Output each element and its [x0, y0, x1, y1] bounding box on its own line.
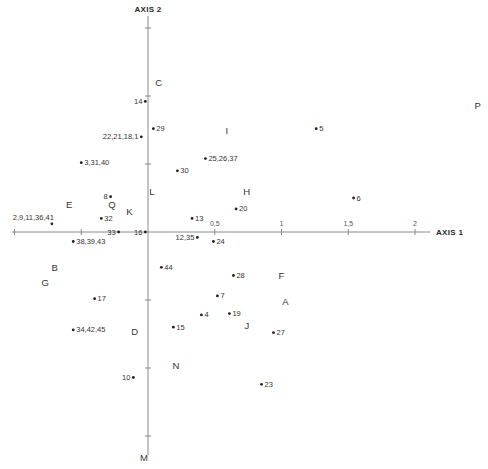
data-point: 44 [160, 263, 173, 272]
point-marker [117, 231, 120, 234]
data-point: 38,39,43 [72, 237, 106, 246]
point-label: 12,35 [176, 233, 195, 242]
data-point: 25,26,37 [204, 154, 238, 163]
point-marker [132, 376, 135, 379]
correspondence-analysis-plot: AXIS 1AXIS 20,511,52 142922,21,18,13,31,… [0, 0, 488, 469]
data-point: 2,9,11,36,41 [13, 213, 54, 225]
point-marker [196, 236, 199, 239]
axes: AXIS 1AXIS 20,511,52 [12, 5, 463, 455]
data-point: 30 [176, 166, 189, 175]
data-point: 17 [93, 294, 106, 303]
point-marker [100, 217, 103, 220]
data-point: 19 [228, 309, 241, 318]
point-label: 6 [357, 194, 361, 203]
point-marker [152, 127, 155, 130]
data-point: 29 [152, 124, 165, 133]
category-label: L [149, 186, 154, 197]
point-label: 20 [239, 204, 247, 213]
data-point: 7 [216, 291, 225, 300]
category-label: E [66, 199, 72, 210]
category-label: H [243, 186, 250, 197]
point-marker [140, 135, 143, 138]
point-label: 27 [276, 328, 284, 337]
x-tick-label: 0,5 [210, 220, 220, 227]
point-label: 33 [107, 228, 115, 237]
data-point: 14 [134, 97, 147, 106]
point-label: 25,26,37 [208, 154, 237, 163]
point-marker [93, 297, 96, 300]
point-label: 23 [264, 380, 272, 389]
point-marker [212, 240, 215, 243]
data-point: 24 [212, 237, 225, 246]
point-label: 19 [232, 309, 240, 318]
point-label: 24 [216, 237, 224, 246]
point-marker [50, 222, 53, 225]
category-label: K [126, 206, 133, 217]
data-points: 142922,21,18,13,31,403025,26,37568322,9,… [13, 97, 361, 389]
point-label: 8 [103, 192, 107, 201]
category-label: P [475, 100, 481, 111]
category-label: J [244, 320, 249, 331]
point-label: 2,9,11,36,41 [13, 213, 54, 222]
point-marker [232, 274, 235, 277]
point-label: 32 [104, 214, 112, 223]
data-point: 10 [122, 373, 135, 382]
point-marker [144, 231, 147, 234]
chart-canvas: AXIS 1AXIS 20,511,52 142922,21,18,13,31,… [0, 0, 488, 469]
point-label: 3,31,40 [84, 158, 109, 167]
point-label: 29 [156, 124, 164, 133]
point-label: 17 [98, 294, 106, 303]
point-marker [191, 217, 194, 220]
data-point: 15 [172, 323, 185, 332]
point-marker [235, 207, 238, 210]
category-label: N [173, 360, 180, 371]
data-point: 3,31,40 [80, 158, 109, 167]
data-point: 23 [260, 380, 273, 389]
point-marker [352, 197, 355, 200]
data-point: 6 [352, 194, 361, 203]
x-tick-label: 1,5 [343, 220, 353, 227]
point-marker [144, 100, 147, 103]
category-label: Q [108, 199, 115, 210]
point-label: 44 [164, 263, 172, 272]
data-point: 32 [100, 214, 113, 223]
data-point: 27 [272, 328, 285, 337]
x-tick-label: 2 [413, 220, 417, 227]
x-tick-label: 1 [280, 220, 284, 227]
category-label: M [140, 452, 148, 463]
point-label: 30 [180, 166, 188, 175]
point-label: 38,39,43 [76, 237, 105, 246]
data-point: 34,42,45 [72, 325, 106, 334]
point-label: 16 [134, 228, 142, 237]
category-label: C [155, 77, 162, 88]
point-marker [228, 312, 231, 315]
point-label: 5 [319, 124, 323, 133]
category-label: G [42, 277, 49, 288]
category-label: D [131, 326, 138, 337]
point-marker [272, 331, 275, 334]
category-label: F [279, 270, 285, 281]
point-label: 34,42,45 [76, 325, 105, 334]
point-label: 14 [134, 97, 142, 106]
data-point: 12,35 [176, 233, 199, 242]
point-label: 28 [236, 271, 244, 280]
point-marker [172, 326, 175, 329]
point-marker [260, 383, 263, 386]
point-label: 22,21,18,1 [103, 132, 138, 141]
data-point: 28 [232, 271, 245, 280]
data-point: 13 [191, 214, 204, 223]
category-label: A [282, 296, 289, 307]
point-marker [72, 240, 75, 243]
point-marker [216, 295, 219, 298]
category-label: I [225, 125, 228, 136]
x-axis-title: AXIS 1 [436, 228, 463, 237]
category-label: B [51, 262, 57, 273]
point-label: 4 [204, 310, 208, 319]
point-marker [315, 127, 318, 130]
data-point: 16 [134, 228, 147, 237]
y-axis-title: AXIS 2 [134, 5, 161, 14]
point-marker [200, 314, 203, 317]
point-label: 10 [122, 373, 130, 382]
point-label: 13 [195, 214, 203, 223]
point-marker [160, 266, 163, 269]
